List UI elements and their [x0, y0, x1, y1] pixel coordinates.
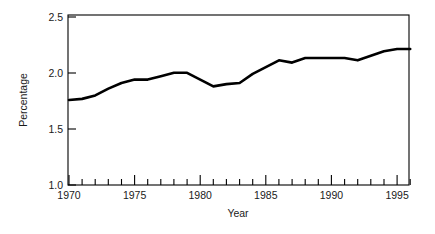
- x-tick-label-1995: 1995: [385, 189, 409, 201]
- x-tick-label-1975: 1975: [123, 189, 147, 201]
- x-tick-label-1990: 1990: [320, 189, 344, 201]
- y-axis-title: Percentage: [17, 73, 29, 127]
- y-axis-tick-labels: 2.5 2.0 1.5 1.0: [48, 11, 63, 191]
- x-tick-label-1985: 1985: [254, 189, 278, 201]
- y-tick-label-2-0: 2.0: [48, 67, 63, 79]
- x-axis-tick-labels: 1970 1975 1980 1985 1990 1995: [57, 189, 409, 201]
- line-chart: 2.5 2.0 1.5 1.0: [0, 0, 435, 234]
- y-tick-label-1-5: 1.5: [48, 123, 63, 135]
- plot-background: [68, 15, 409, 185]
- y-tick-label-2-5: 2.5: [48, 11, 63, 23]
- x-axis-title: Year: [227, 207, 249, 219]
- chart-figure: 2.5 2.0 1.5 1.0: [0, 0, 435, 234]
- x-tick-label-1970: 1970: [57, 189, 81, 201]
- x-tick-label-1980: 1980: [189, 189, 213, 201]
